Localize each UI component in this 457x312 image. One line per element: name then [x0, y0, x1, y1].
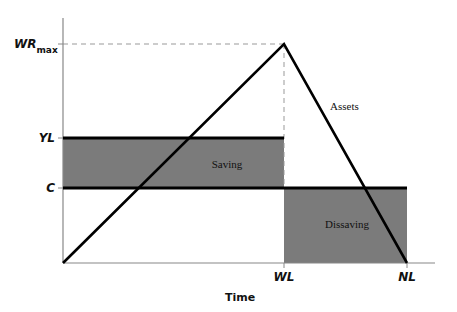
saving-region	[63, 138, 284, 188]
saving-label: Saving	[212, 158, 243, 170]
y-label-yl: YL	[39, 131, 55, 145]
life-cycle-diagram: WRmax YL C WL NL Time Saving Dissaving A…	[0, 0, 457, 312]
x-label-wl: WL	[274, 270, 295, 284]
x-label-nl: NL	[398, 270, 416, 284]
assets-label: Assets	[330, 100, 359, 112]
y-label-wrmax: WRmax	[14, 37, 58, 55]
y-label-c: C	[46, 181, 55, 195]
x-axis-title: Time	[225, 291, 255, 304]
dissaving-label: Dissaving	[325, 218, 370, 230]
